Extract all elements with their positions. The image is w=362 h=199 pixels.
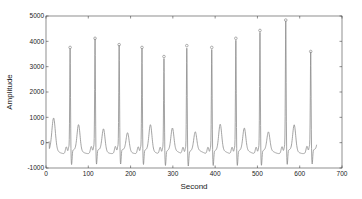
- y-tick-label: 5000: [30, 12, 45, 19]
- y-tick-label: -1000: [27, 164, 44, 171]
- y-tick-label: 4000: [30, 38, 45, 45]
- y-tick-label: 2000: [30, 88, 45, 95]
- x-tick-label: 300: [167, 170, 178, 177]
- x-tick-label: 200: [125, 170, 136, 177]
- x-tick-label: 0: [44, 170, 48, 177]
- y-axis-label: Amplitude: [5, 74, 14, 110]
- x-tick-label: 600: [294, 170, 305, 177]
- y-tick-label: 1000: [30, 114, 45, 121]
- x-tick-label: 700: [337, 170, 348, 177]
- x-tick-label: 100: [83, 170, 94, 177]
- ecg-chart: 0100200300400500600700-10000100020003000…: [0, 0, 362, 199]
- y-tick-label: 0: [40, 139, 44, 146]
- x-tick-label: 400: [210, 170, 221, 177]
- y-tick-label: 3000: [30, 63, 45, 70]
- x-axis-label: Second: [180, 182, 207, 191]
- plot-area: [46, 16, 342, 168]
- x-tick-label: 500: [252, 170, 263, 177]
